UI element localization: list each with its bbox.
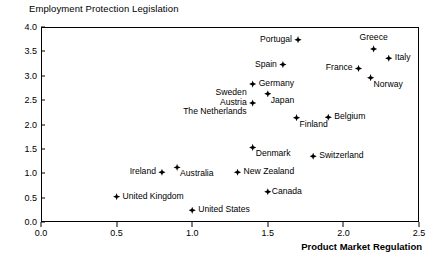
y-tick-label: 0.5 bbox=[24, 193, 41, 203]
data-point-label: New Zealand bbox=[244, 167, 295, 177]
data-point-marker bbox=[249, 80, 256, 87]
data-point-label: Japan bbox=[271, 96, 294, 106]
data-point-marker bbox=[294, 36, 301, 43]
y-tick-mark bbox=[41, 75, 45, 76]
data-point-label: Spain bbox=[255, 60, 277, 70]
x-tick-label: 0.5 bbox=[110, 222, 123, 238]
plot-area: 0.00.51.01.52.02.53.03.54.0 0.00.51.01.5… bbox=[41, 27, 419, 222]
data-point-label: Portugal bbox=[260, 35, 292, 45]
data-point-marker bbox=[249, 99, 256, 106]
data-point-marker bbox=[234, 169, 241, 176]
y-tick-mark bbox=[41, 124, 45, 125]
y-tick-mark bbox=[41, 197, 45, 198]
data-point-label: Germany bbox=[259, 79, 294, 89]
y-tick-label: 2.5 bbox=[24, 95, 41, 105]
data-point-label: Norway bbox=[374, 80, 403, 90]
y-tick-mark bbox=[41, 173, 45, 174]
y-tick-mark bbox=[41, 27, 45, 28]
data-point-marker bbox=[158, 169, 165, 176]
data-point-label: Canada bbox=[272, 187, 302, 197]
data-point-label: Switzerland bbox=[319, 151, 363, 161]
x-axis-title: Product Market Regulation bbox=[301, 241, 422, 252]
x-tick-label: 2.0 bbox=[337, 222, 350, 238]
y-tick-label: 2.0 bbox=[24, 120, 41, 130]
y-tick-label: 3.5 bbox=[24, 46, 41, 56]
data-point-label: United Kingdom bbox=[123, 192, 184, 202]
y-tick-mark bbox=[41, 100, 45, 101]
data-point-label: Finland bbox=[300, 120, 328, 130]
data-point-label: France bbox=[326, 63, 353, 73]
scatter-chart: Employment Protection Legislation 0.00.5… bbox=[0, 0, 438, 263]
data-point-marker bbox=[264, 188, 271, 195]
x-tick-label: 2.5 bbox=[413, 222, 426, 238]
data-point-label: SwedenAustriaThe Netherlands bbox=[183, 88, 247, 117]
data-point-label: Ireland bbox=[130, 167, 156, 177]
data-point-marker bbox=[113, 193, 120, 200]
x-tick-label: 1.5 bbox=[262, 222, 275, 238]
data-point-marker bbox=[189, 207, 196, 214]
data-point-label: Australia bbox=[180, 169, 213, 179]
data-point-label: Italy bbox=[395, 53, 411, 63]
y-tick-label: 1.5 bbox=[24, 144, 41, 154]
data-point-marker bbox=[279, 61, 286, 68]
data-point-label: Greece bbox=[360, 33, 388, 43]
y-tick-label: 4.0 bbox=[24, 22, 41, 32]
y-tick-mark bbox=[41, 148, 45, 149]
data-point-marker bbox=[310, 153, 317, 160]
y-tick-label: 1.0 bbox=[24, 168, 41, 178]
x-tick-label: 0.0 bbox=[35, 222, 48, 238]
data-point-label: Belgium bbox=[334, 112, 365, 122]
data-point-label: Denmark bbox=[256, 149, 291, 159]
data-point-marker bbox=[355, 65, 362, 72]
y-tick-mark bbox=[41, 51, 45, 52]
data-point-label: United States bbox=[198, 205, 250, 215]
x-tick-label: 1.0 bbox=[186, 222, 199, 238]
data-point-marker bbox=[370, 45, 377, 52]
y-axis-title: Employment Protection Legislation bbox=[29, 3, 179, 14]
y-tick-label: 3.0 bbox=[24, 71, 41, 81]
data-point-marker bbox=[385, 55, 392, 62]
